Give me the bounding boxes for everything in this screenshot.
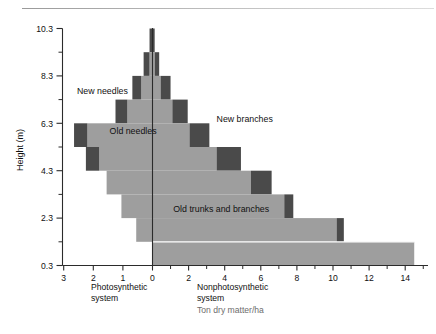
bar-right-old-9 (153, 242, 415, 266)
bars-layer (74, 29, 414, 266)
y-tick-label-0: 0.3 (41, 261, 53, 271)
bar-right-new-5 (217, 147, 241, 171)
bar-left-new-5 (86, 147, 99, 171)
x-tick-label-right-1: 2 (186, 273, 191, 283)
bar-right-new-4 (190, 123, 210, 147)
x-tick-label-left-0: 3 (61, 273, 66, 283)
x-tick-label-right-5: 10 (328, 273, 338, 283)
x-tick-label-right-4: 8 (295, 273, 300, 283)
xaxis-title-right-line2: system (197, 293, 224, 303)
bar-left-old-3 (127, 100, 152, 124)
xaxis-title-right-line1: Nonphotosynthetic (197, 282, 269, 292)
bar-right-new-7 (284, 194, 293, 218)
yaxis-title: Height (m) (15, 129, 25, 171)
bar-left-new-3 (116, 100, 128, 124)
x-tick-label-right-6: 12 (364, 273, 374, 283)
x-tick-label-right-7: 14 (400, 273, 410, 283)
y-tick-label-4: 8.3 (41, 71, 53, 81)
bar-right-new-2 (161, 76, 171, 100)
annotation-1: Old needles (110, 126, 158, 136)
bar-right-old-4 (153, 123, 190, 147)
y-tick-label-2: 4.3 (41, 166, 53, 176)
bar-right-new-6 (251, 171, 272, 195)
band-separator-line (153, 241, 415, 242)
y-tick-label-5: 10.3 (36, 24, 53, 34)
bar-left-old-5 (99, 147, 152, 171)
bar-right-old-5 (153, 147, 217, 171)
bar-left-old-2 (141, 76, 152, 100)
annotation-3: Old trunks and branches (173, 204, 269, 214)
y-tick-label-1: 2.3 (41, 213, 53, 223)
bar-right-old-2 (153, 76, 161, 100)
x-tick-label-right-0: 0 (150, 273, 155, 283)
bar-right-new-3 (172, 100, 187, 124)
bar-left-new-1 (144, 52, 150, 76)
pyramid-chart: 0.32.34.36.38.310.332102468101214 New ne… (0, 0, 436, 334)
bar-left-old-6 (107, 171, 153, 195)
annotation-0: New needles (77, 86, 128, 96)
bar-right-old-8 (153, 218, 337, 242)
y-tick-label-3: 6.3 (41, 119, 53, 129)
chart-root: 0.32.34.36.38.310.332102468101214 New ne… (0, 0, 436, 334)
bar-left-new-2 (132, 76, 141, 100)
bar-right-old-6 (153, 171, 251, 195)
bar-left-old-7 (121, 194, 152, 218)
annotation-2: New branches (217, 114, 274, 124)
bar-left-old-8 (136, 218, 152, 242)
xaxis-title-left-line2: system (91, 293, 118, 303)
bar-right-new-1 (155, 52, 160, 76)
bar-right-old-3 (153, 100, 173, 124)
xaxis-title-left-line1: Photosynthetic (91, 282, 148, 292)
bar-left-new-4 (74, 123, 87, 147)
bar-right-new-8 (337, 218, 344, 242)
xaxis-units-label: Ton dry matter/ha (197, 305, 264, 315)
